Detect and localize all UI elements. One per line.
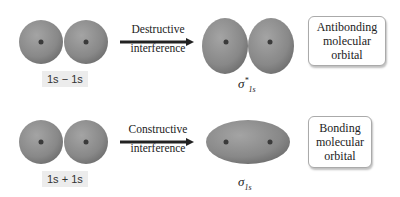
atomic-orbital-pair-constructive bbox=[19, 120, 108, 164]
arrow-label-line1: Constructive bbox=[118, 122, 198, 136]
arrow-label-line1: Destructive bbox=[118, 22, 198, 36]
label-1s-minus-1s: 1s − 1s bbox=[42, 71, 88, 87]
bonding-orbital-shape bbox=[206, 120, 290, 164]
arrow-label-constructive: Constructive interference bbox=[118, 122, 198, 155]
atomic-orbital-pair-destructive bbox=[19, 20, 108, 64]
sigma-star-1s-symbol: σ*1s bbox=[238, 76, 256, 94]
label-1s-plus-1s: 1s + 1s bbox=[42, 171, 88, 187]
sigma-1s-symbol: σ1s bbox=[238, 174, 252, 192]
antibonding-label-box: Antibonding molecular orbital bbox=[308, 16, 386, 66]
arrow-label-destructive: Destructive interference bbox=[118, 22, 198, 55]
arrow-label-line2: interference bbox=[118, 141, 198, 155]
bonding-label-box: Bonding molecular orbital bbox=[308, 116, 372, 168]
antibonding-orbital-shape bbox=[202, 18, 294, 74]
arrow-label-line2: interference bbox=[118, 41, 198, 55]
